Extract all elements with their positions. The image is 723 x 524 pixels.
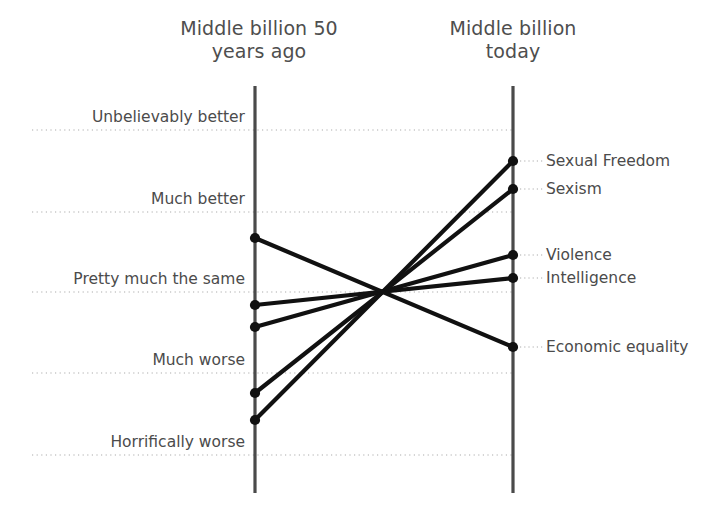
series-point-right [508, 184, 518, 194]
y-category-label: Much worse [0, 351, 245, 369]
y-category-label: Horrifically worse [0, 433, 245, 451]
series-label-sexism: Sexism [546, 180, 602, 198]
y-category-label: Pretty much the same [0, 270, 245, 288]
series-label-violence: Violence [546, 246, 612, 264]
gridlines-group [32, 130, 513, 455]
series-point-left [250, 415, 260, 425]
series-point-right [508, 250, 518, 260]
column-header-left: Middle billion 50 years ago [128, 17, 390, 63]
series-point-right [508, 156, 518, 166]
column-header-right: Middle billion today [400, 17, 626, 63]
series-label-sexual-freedom: Sexual Freedom [546, 152, 670, 170]
series-lines-group [255, 161, 513, 420]
series-label-intelligence: Intelligence [546, 269, 636, 287]
series-point-left [250, 233, 260, 243]
series-label-economic-equality: Economic equality [546, 338, 689, 356]
series-point-right [508, 342, 518, 352]
slope-chart: Middle billion 50 years ago Middle billi… [0, 0, 723, 524]
y-category-label: Unbelievably better [0, 108, 245, 126]
series-point-left [250, 300, 260, 310]
y-category-label: Much better [0, 190, 245, 208]
series-point-left [250, 322, 260, 332]
series-point-right [508, 273, 518, 283]
label-leader-lines-group [520, 161, 543, 347]
series-point-left [250, 388, 260, 398]
